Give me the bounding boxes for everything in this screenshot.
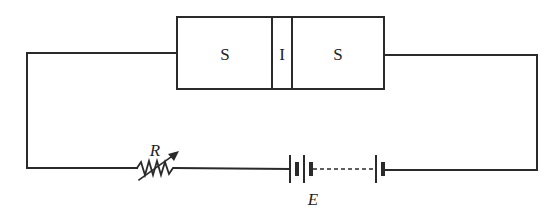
wire-right — [384, 55, 537, 170]
battery-label: E — [307, 190, 319, 209]
junction-right-label: S — [333, 45, 342, 64]
circuit-diagram: S I S R E — [0, 0, 555, 216]
variable-arrow-head-icon — [168, 151, 179, 161]
wire-bottom-middle — [175, 168, 290, 169]
battery-short-plate-1 — [295, 162, 299, 176]
junction-middle-label: I — [279, 45, 285, 64]
junction-left-label: S — [220, 45, 229, 64]
battery-short-plate-2 — [309, 162, 313, 176]
battery-short-plate-3 — [381, 162, 385, 176]
resistor-label: R — [149, 141, 161, 160]
